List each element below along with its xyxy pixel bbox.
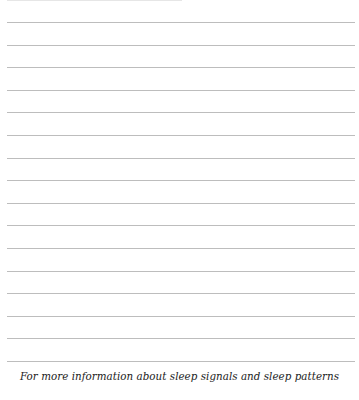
- ruled-line: [7, 90, 355, 91]
- ruled-line: [7, 248, 355, 249]
- ruled-line: [7, 225, 355, 226]
- ruled-line: [7, 67, 355, 68]
- footer-note: For more information about sleep signals…: [0, 370, 359, 382]
- ruled-line: [7, 45, 355, 46]
- ruled-line: [7, 271, 355, 272]
- ruled-line: [7, 180, 355, 181]
- ruled-line: [7, 203, 355, 204]
- ruled-line: [7, 135, 355, 136]
- ruled-line: [7, 316, 355, 317]
- ruled-line: [7, 112, 355, 113]
- ruled-line: [7, 293, 355, 294]
- ruled-line: [7, 158, 355, 159]
- top-rule-fragment: [7, 0, 182, 1]
- ruled-line: [7, 361, 355, 362]
- ruled-line: [7, 338, 355, 339]
- ruled-line: [7, 22, 355, 23]
